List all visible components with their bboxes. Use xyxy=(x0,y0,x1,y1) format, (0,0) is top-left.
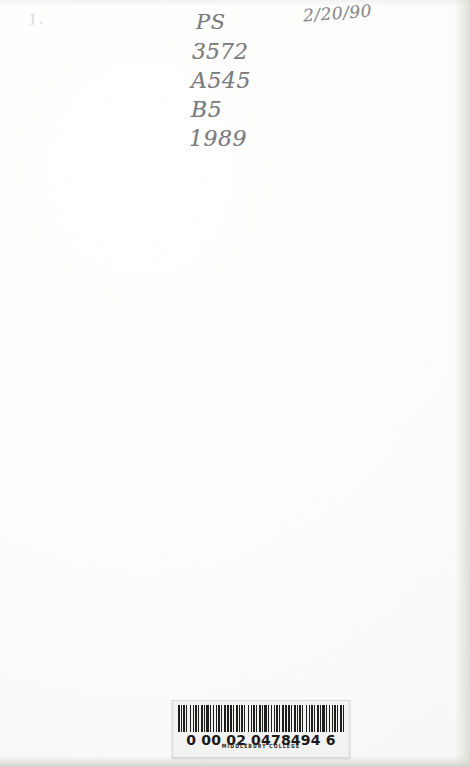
barcode-digit-group-5: 6 xyxy=(326,733,336,748)
call-number-line-2: 3572 xyxy=(192,37,251,66)
handwritten-call-number: PS 3572 A545 B5 1989 xyxy=(192,8,251,153)
barcode-digit-group-2: 00 xyxy=(201,733,221,748)
barcode-stripes-icon xyxy=(178,705,344,732)
page-top-edge-shadow xyxy=(0,0,470,6)
barcode-institution-name: MIDDLEBURY COLLEGE xyxy=(222,743,300,749)
call-number-line-5: 1989 xyxy=(189,124,251,153)
barcode-digit-group-1: 0 xyxy=(186,733,196,748)
call-number-line-1: PS xyxy=(196,8,251,37)
scanned-flyleaf-page: 1. PS 3572 A545 B5 1989 2/20/90 0 00 02 … xyxy=(0,0,470,767)
call-number-line-3: A545 xyxy=(191,66,251,95)
library-barcode-label: 0 00 02 0478494 6 MIDDLEBURY COLLEGE xyxy=(172,700,350,758)
corner-pencil-mark: 1. xyxy=(27,9,44,29)
call-number-line-4: B5 xyxy=(191,95,251,124)
page-right-edge-shadow xyxy=(454,0,470,767)
